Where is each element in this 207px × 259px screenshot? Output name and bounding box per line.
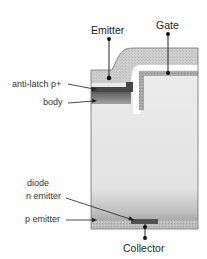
emitter-contact-dot xyxy=(107,76,112,81)
collector-contact-dot xyxy=(143,225,147,229)
gate-contact-dot xyxy=(166,71,170,75)
body-region xyxy=(91,92,131,104)
emitter-terminal-label: Emitter xyxy=(91,25,124,36)
gate-top-dot xyxy=(166,32,170,36)
collector-bottom-dot xyxy=(143,236,147,240)
body-label: body xyxy=(43,98,63,107)
anti-latch-leader xyxy=(68,84,94,89)
collector-terminal-label: Collector xyxy=(123,243,164,254)
p-emitter-label: p emitter xyxy=(25,215,60,224)
gate-terminal-label: Gate xyxy=(156,20,179,31)
emitter-top-dot xyxy=(107,37,111,41)
anti-latch-p-plus-label: anti-latch p+ xyxy=(12,80,61,89)
diode-n-emitter-region xyxy=(131,219,158,224)
body-leader xyxy=(68,101,94,103)
diode-label-line1: diode xyxy=(27,179,49,188)
diode-label-line2: n emitter xyxy=(26,192,61,201)
